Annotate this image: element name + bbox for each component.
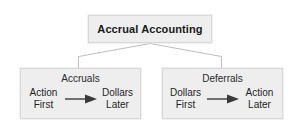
child-node-accruals: Accruals Action First Dollars Later xyxy=(20,68,141,119)
deferrals-flow-target-line2: Later xyxy=(240,99,280,111)
accruals-flow: Action First Dollars Later xyxy=(21,87,140,110)
arrow-right-icon xyxy=(64,93,98,105)
child-node-deferrals: Deferrals Dollars First Action Later xyxy=(162,68,283,119)
connector-left xyxy=(79,44,151,69)
accruals-flow-source: Action First xyxy=(24,87,64,110)
deferrals-flow: Dollars First Action Later xyxy=(163,87,282,110)
root-node-label: Accrual Accounting xyxy=(97,23,202,35)
accruals-flow-target: Dollars Later xyxy=(98,87,138,110)
root-node-accrual-accounting: Accrual Accounting xyxy=(88,15,212,43)
deferrals-flow-source: Dollars First xyxy=(166,87,206,110)
accruals-title: Accruals xyxy=(21,72,140,85)
deferrals-flow-source-line1: Dollars xyxy=(166,87,206,99)
accruals-flow-target-line1: Dollars xyxy=(98,87,138,99)
connector-right xyxy=(150,44,222,69)
deferrals-flow-target: Action Later xyxy=(240,87,280,110)
accruals-flow-source-line2: First xyxy=(24,99,64,111)
accruals-flow-target-line2: Later xyxy=(98,99,138,111)
deferrals-flow-source-line2: First xyxy=(166,99,206,111)
arrow-right-icon xyxy=(206,93,240,105)
deferrals-flow-target-line1: Action xyxy=(240,87,280,99)
accruals-flow-source-line1: Action xyxy=(24,87,64,99)
deferrals-title: Deferrals xyxy=(163,72,282,85)
accrual-accounting-diagram: Accrual Accounting Accruals Action First… xyxy=(0,0,299,131)
